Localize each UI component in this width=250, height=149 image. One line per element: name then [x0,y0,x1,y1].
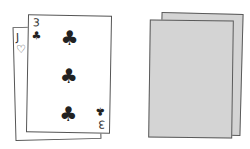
heart-suit-icon: ♡ [16,44,26,55]
club-pip-icon: ♣ [60,28,78,48]
club-suit-icon: ♣ [32,30,42,41]
card-three-of-clubs[interactable]: 3 ♣ ♣ ♣ ♣ ♣ 3 [26,14,112,133]
card-rank-top: 3 [33,17,40,28]
card-back[interactable] [148,19,234,138]
card-rank: J [16,32,20,43]
club-pip-icon: ♣ [60,66,78,86]
card-rank-bottom: 3 [98,119,105,130]
club-suit-icon: ♣ [95,105,105,116]
club-pip-icon: ♣ [59,104,77,124]
